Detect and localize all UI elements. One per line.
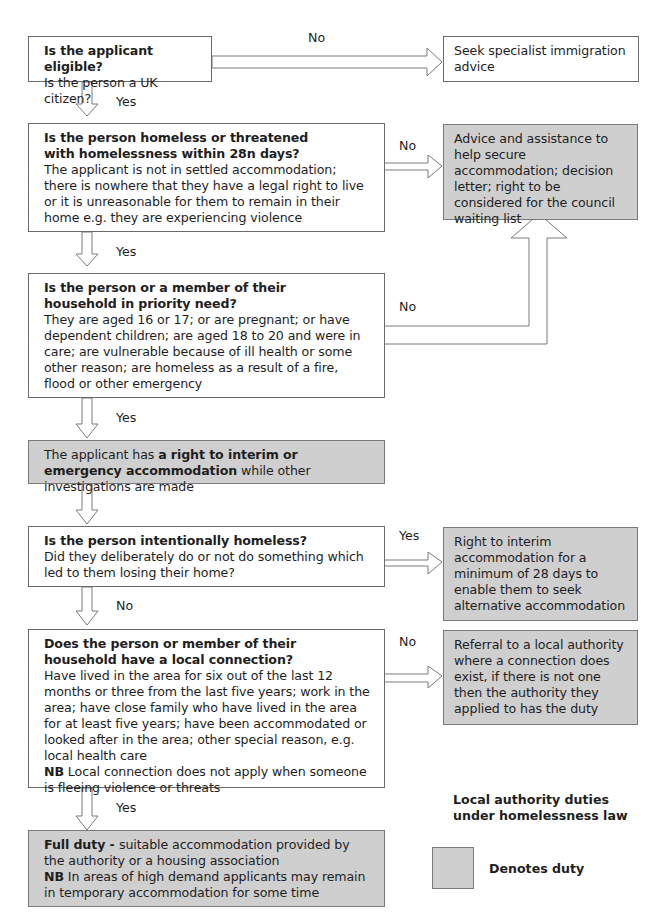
local-connection-detail: Have lived in the area for six out of th… bbox=[44, 668, 370, 764]
referral-duty-box: Referral to a local authority where a co… bbox=[443, 630, 638, 725]
interim-28-days-text: Right to interim accommodation for a min… bbox=[454, 534, 627, 614]
eligibility-no-label: No bbox=[308, 30, 325, 46]
eligibility-question-box: Is the applicant eligible? Is the person… bbox=[28, 36, 212, 82]
local-connection-question-box: Does the person or member of their house… bbox=[28, 629, 385, 788]
priority-need-question: Is the person or a member of their house… bbox=[44, 280, 370, 312]
priority-need-question-box: Is the person or a member of their house… bbox=[28, 273, 385, 398]
arrow-right-icon bbox=[212, 48, 442, 76]
interim-28-days-duty-box: Right to interim accommodation for a min… bbox=[443, 527, 638, 621]
nb-label: NB bbox=[44, 764, 64, 779]
local-connection-no-label: No bbox=[399, 634, 416, 650]
eligibility-question: Is the applicant eligible? bbox=[44, 43, 197, 75]
homelessness-no-label: No bbox=[399, 138, 416, 154]
nb-text: Local connection does not apply when som… bbox=[44, 764, 367, 795]
local-connection-question: Does the person or member of their house… bbox=[44, 636, 370, 668]
intentional-detail: Did they deliberately do or not do somet… bbox=[44, 549, 370, 581]
full-duty-nb-text: In areas of high demand applicants may r… bbox=[44, 869, 365, 900]
diagram-title: Local authority duties under homelessnes… bbox=[453, 792, 653, 824]
full-duty-line: Full duty - suitable accommodation provi… bbox=[44, 837, 370, 869]
eligibility-yes-label: Yes bbox=[116, 94, 136, 110]
local-connection-yes-label: Yes bbox=[116, 800, 136, 816]
arrow-down-icon bbox=[76, 587, 98, 625]
full-duty-bold: Full duty - bbox=[44, 837, 119, 852]
arrow-down-icon bbox=[76, 232, 98, 266]
priority-need-yes-label: Yes bbox=[116, 410, 136, 426]
homelessness-yes-label: Yes bbox=[116, 244, 136, 260]
arrow-right-icon bbox=[384, 552, 442, 574]
legend-duty-swatch bbox=[432, 847, 474, 889]
arrow-down-icon bbox=[76, 398, 98, 438]
priority-need-no-label: No bbox=[399, 299, 416, 315]
full-duty-nb-label: NB bbox=[44, 869, 64, 884]
priority-need-detail: They are aged 16 or 17; or are pregnant;… bbox=[44, 312, 370, 392]
immigration-advice-text: Seek specialist immigration advice bbox=[454, 43, 628, 75]
intentional-homeless-question-box: Is the person intentionally homeless? Di… bbox=[28, 526, 385, 587]
intentional-yes-label: Yes bbox=[399, 528, 419, 544]
intentional-question: Is the person intentionally homeless? bbox=[44, 533, 370, 549]
full-duty-box: Full duty - suitable accommodation provi… bbox=[28, 830, 385, 907]
full-duty-nb: NB In areas of high demand applicants ma… bbox=[44, 869, 370, 901]
immigration-advice-box: Seek specialist immigration advice bbox=[443, 36, 639, 82]
advice-assistance-text: Advice and assistance to help secure acc… bbox=[454, 131, 627, 227]
advice-assistance-duty-box: Advice and assistance to help secure acc… bbox=[443, 124, 638, 220]
homelessness-question-box: Is the person homeless or threatened wit… bbox=[28, 123, 385, 232]
arrow-right-icon bbox=[384, 666, 442, 688]
interim-text-before: The applicant has bbox=[44, 447, 158, 462]
local-connection-nb: NB Local connection does not apply when … bbox=[44, 764, 370, 796]
legend-duty-label: Denotes duty bbox=[489, 861, 584, 877]
arrow-elbow-up-icon bbox=[384, 214, 567, 344]
interim-accommodation-duty-box: The applicant has a right to interim or … bbox=[28, 440, 385, 484]
intentional-no-label: No bbox=[116, 598, 133, 614]
homelessness-detail: The applicant is not in settled accommod… bbox=[44, 162, 370, 226]
homelessness-question: Is the person homeless or threatened wit… bbox=[44, 130, 370, 162]
referral-text: Referral to a local authority where a co… bbox=[454, 637, 627, 717]
arrow-right-icon bbox=[384, 155, 442, 178]
